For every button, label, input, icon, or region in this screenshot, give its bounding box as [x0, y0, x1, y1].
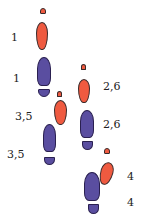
blue-footprint-sole-step-3-5: [43, 124, 56, 152]
step-label-red-2-6: 2,6: [103, 81, 121, 92]
red-footprint-toe-step-4: [104, 148, 110, 154]
step-label-red-1: 1: [11, 32, 18, 43]
step-label-blue-4: 4: [127, 197, 134, 208]
red-footprint-toe-step-2-6: [81, 64, 86, 70]
blue-footprint-heel-step-4: [88, 204, 99, 214]
step-label-red-3-5: 3,5: [15, 111, 33, 122]
step-label-blue-2-6: 2,6: [103, 119, 121, 130]
step-label-blue-3-5: 3,5: [7, 149, 25, 160]
red-footprint-sole-step-4: [97, 161, 116, 187]
red-footprint-sole-step-1: [36, 22, 48, 50]
blue-footprint-sole-step-4: [84, 172, 100, 201]
blue-footprint-sole-step-1: [37, 57, 51, 86]
blue-footprint-heel-step-2-6: [82, 141, 93, 150]
red-footprint-toe-step-3-5: [57, 91, 62, 97]
red-footprint-sole-step-2-6: [78, 79, 90, 103]
red-footprint-sole-step-3-5: [54, 100, 67, 125]
blue-footprint-heel-step-3-5: [44, 157, 55, 165]
step-label-red-4: 4: [127, 171, 134, 182]
red-footprint-toe-step-1: [40, 8, 46, 14]
blue-footprint-sole-step-2-6: [80, 110, 94, 138]
step-label-blue-1: 1: [13, 73, 20, 84]
blue-footprint-heel-step-1: [38, 89, 50, 97]
